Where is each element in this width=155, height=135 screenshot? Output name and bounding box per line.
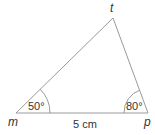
angle-p-label: 80° [126,100,143,112]
vertex-t-label: t [110,1,114,15]
vertex-p-label: p [143,115,151,129]
side-mp-length: 5 cm [73,118,97,130]
side-mt [16,18,113,113]
side-pt [113,18,148,113]
vertex-m-label: m [8,115,18,129]
angle-m-label: 50° [28,100,45,112]
triangle-diagram: 50° 80° m p t 5 cm [0,0,155,135]
